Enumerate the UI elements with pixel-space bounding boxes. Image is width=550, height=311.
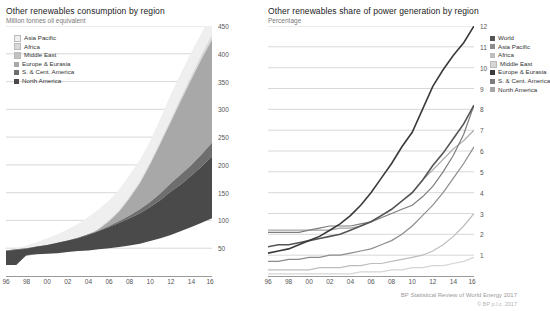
right-plot-area [268,26,474,276]
legend-swatch-icon [14,79,19,84]
right-x-tick: 98 [285,278,292,285]
legend-swatch-icon [490,53,495,58]
left-chart-subtitle: Million tonnes oil equivalent [6,17,86,24]
left-x-tick: 00 [44,278,51,285]
left-x-tick: 12 [167,278,174,285]
legend-label: North America [22,77,61,86]
left-legend: Asia Pacific Africa Middle East Europe &… [14,34,74,86]
right-x-tick: 16 [468,278,475,285]
left-y-tick: 450 [218,23,229,30]
legend-item: Europe & Eurasia [14,60,74,69]
legend-item: S. & Cent. America [490,77,550,86]
left-x-tick: 10 [147,278,154,285]
left-y-tick: 200 [218,161,229,168]
legend-item: Asia Pacific [14,34,74,43]
left-y-tick: 250 [218,134,229,141]
right-legend: World Asia Pacific Africa Middle East Eu… [490,34,550,94]
legend-label: Middle East [24,51,56,60]
legend-swatch-icon [490,44,495,49]
legend-swatch-icon [14,70,19,75]
legend-item: North America [490,86,550,95]
left-x-tick: 98 [23,278,30,285]
left-y-tick: 300 [218,106,229,113]
right-y-tick: 1 [480,252,484,259]
left-x-tick: 96 [2,278,9,285]
right-x-axis: 96 98 00 02 04 06 08 10 12 14 16 [268,276,474,288]
left-x-tick: 08 [126,278,133,285]
left-x-axis: 96 98 00 02 04 06 08 10 12 14 16 [6,276,212,288]
source-note: BP Statistical Review of World Energy 20… [401,292,517,298]
legend-swatch-icon [490,61,497,68]
left-x-tick: 04 [85,278,92,285]
right-y-tick: 10 [480,64,487,71]
left-axis-baseline [6,276,212,277]
right-x-tick: 12 [429,278,436,285]
left-y-axis: 450 400 350 300 250 200 150 100 50 [216,26,256,276]
right-y-tick: 11 [480,43,487,50]
legend-item: Europe & Eurasia [490,68,550,77]
right-x-tick: 14 [450,278,457,285]
right-y-tick: 12 [480,23,487,30]
legend-label: S. & Cent. America [498,77,550,86]
right-x-tick: 96 [264,278,271,285]
copyright-note: © BP p.l.c. 2017 [477,301,517,307]
right-line-chart [268,26,474,276]
legend-item: North America [14,77,74,86]
left-x-tick: 14 [188,278,195,285]
legend-swatch-icon [14,43,21,50]
right-y-tick: 6 [480,148,484,155]
legend-item: Africa [14,43,74,52]
line-world [268,105,474,247]
legend-item: Middle East [490,60,550,69]
right-y-tick: 9 [480,85,484,92]
legend-label: Asia Pacific [498,43,530,52]
right-x-tick: 08 [388,278,395,285]
left-x-tick: 16 [206,278,213,285]
line-north-america [268,130,474,230]
right-x-tick: 02 [326,278,333,285]
legend-label: North America [498,86,537,95]
right-x-tick: 06 [367,278,374,285]
legend-item: Asia Pacific [490,43,550,52]
legend-label: Europe & Eurasia [498,68,547,77]
legend-swatch-icon [490,87,495,92]
legend-swatch-icon [14,62,19,67]
legend-label: Europe & Eurasia [22,60,71,69]
right-y-tick: 8 [480,106,484,113]
legend-item: World [490,34,550,43]
left-y-tick: 400 [218,50,229,57]
right-y-tick: 2 [480,231,484,238]
legend-item: Africa [490,51,550,60]
left-chart-title: Other renewables consumption by region [6,6,165,16]
right-y-tick: 7 [480,127,484,134]
right-gridlines [268,26,474,255]
legend-label: S. & Cent. America [22,68,74,77]
legend-swatch-icon [14,52,21,59]
right-y-tick: 4 [480,189,484,196]
legend-label: Middle East [500,60,532,69]
right-y-tick: 5 [480,168,484,175]
legend-label: World [498,34,514,43]
left-y-tick: 150 [218,189,229,196]
right-axis-baseline [268,276,474,277]
left-y-tick: 100 [218,217,229,224]
left-y-tick: 350 [218,78,229,85]
legend-label: Africa [24,43,40,52]
legend-swatch-icon [14,35,21,42]
chart-panel-right: Other renewables share of power generati… [262,0,525,311]
legend-label: Asia Pacific [24,34,56,43]
legend-item: S. & Cent. America [14,68,74,77]
legend-item: Middle East [14,51,74,60]
right-y-tick: 3 [480,210,484,217]
left-x-tick: 02 [64,278,71,285]
right-x-tick: 10 [409,278,416,285]
legend-swatch-icon [490,36,495,41]
chart-panel-left: Other renewables consumption by region M… [0,0,262,311]
right-x-tick: 00 [306,278,313,285]
right-chart-subtitle: Percentage [268,17,301,24]
right-series-lines [268,26,474,274]
right-chart-title: Other renewables share of power generati… [268,6,479,16]
legend-label: Africa [498,51,514,60]
left-y-tick: 50 [218,245,225,252]
